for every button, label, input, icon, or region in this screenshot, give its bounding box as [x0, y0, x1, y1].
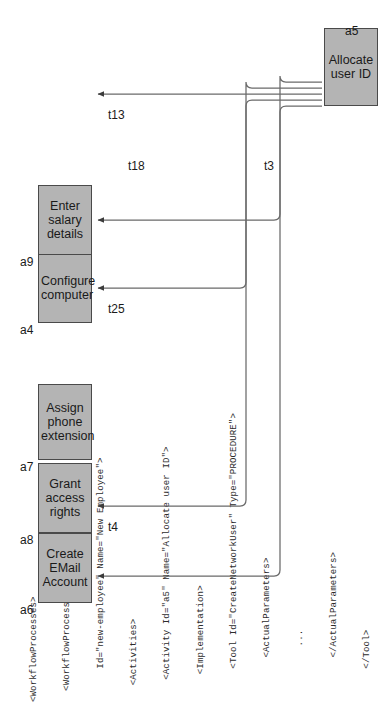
edge-t25	[98, 82, 322, 288]
figure-rotation-wrapper: <WorkflowProcesses> <WorkflowProcess Acc…	[0, 0, 390, 716]
activity-id-a5: a5	[345, 24, 358, 38]
activity-node-a5[interactable]: Allocate user ID	[324, 28, 378, 106]
transition-label-t4: t4	[108, 520, 118, 534]
activity-id-a7: a7	[20, 460, 33, 474]
activity-node-label: Assign phone extension	[38, 401, 92, 443]
transition-edges	[0, 0, 390, 716]
activity-diagram: Create EMail Account a6 Grant access rig…	[0, 0, 390, 716]
transition-label-t13: t13	[108, 108, 125, 122]
activity-node-a9[interactable]: Enter salary details	[38, 185, 92, 255]
edge-t18	[98, 76, 322, 220]
activity-node-a7[interactable]: Assign phone extension	[38, 384, 92, 460]
activity-id-a4: a4	[20, 323, 33, 337]
activity-node-label: Allocate user ID	[324, 53, 378, 81]
activity-id-a8: a8	[20, 533, 33, 547]
activity-node-a8[interactable]: Grant access rights	[38, 463, 92, 533]
activity-node-label: Create EMail Account	[38, 547, 92, 589]
activity-node-a4[interactable]: Configure computer	[38, 253, 92, 323]
edge-t3	[98, 106, 322, 576]
activity-id-a6: a6	[20, 603, 33, 617]
activity-node-label: Enter salary details	[38, 199, 92, 241]
transition-label-t18: t18	[128, 159, 145, 173]
activity-node-a6[interactable]: Create EMail Account	[38, 533, 92, 603]
transition-label-t3: t3	[264, 159, 274, 173]
activity-id-a9: a9	[20, 255, 33, 269]
transition-label-t25: t25	[108, 302, 125, 316]
activity-node-label: Grant access rights	[38, 477, 92, 519]
activity-node-label: Configure computer	[38, 274, 92, 302]
workflow-figure: <WorkflowProcesses> <WorkflowProcess Acc…	[0, 0, 390, 716]
